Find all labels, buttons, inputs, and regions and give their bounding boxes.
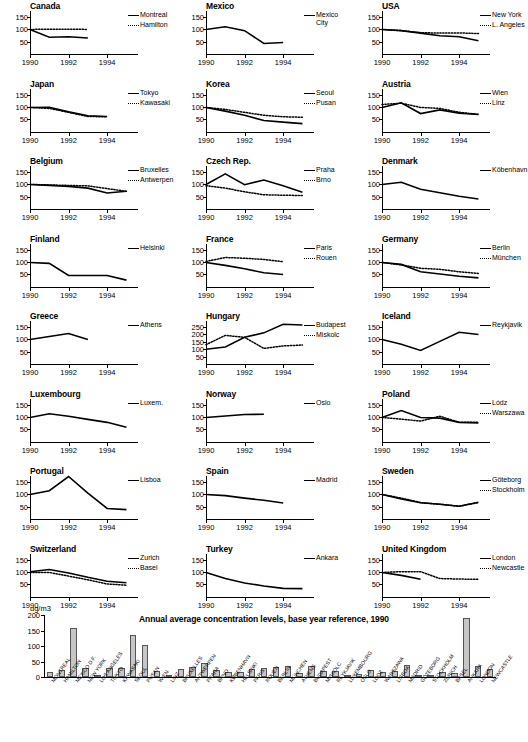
series-group bbox=[206, 11, 318, 54]
panel-title: USA bbox=[382, 1, 400, 11]
x-axis bbox=[206, 209, 314, 210]
legend-label: Berlin bbox=[492, 244, 510, 252]
x-tick-label: 1990 bbox=[22, 368, 39, 377]
legend-label: Montreal bbox=[140, 11, 167, 19]
series-line bbox=[30, 334, 88, 340]
y-tick-label: 50 bbox=[176, 502, 204, 511]
x-tick-label: 1992 bbox=[412, 368, 429, 377]
legend-swatch-icon bbox=[304, 166, 316, 171]
x-tick-label: 1994 bbox=[275, 523, 292, 532]
panel-legend: ZurichBasel bbox=[128, 554, 176, 574]
x-tick-label: 1992 bbox=[60, 58, 77, 67]
legend-item: Hamilton bbox=[128, 21, 176, 29]
y-tick-label: 100 bbox=[352, 257, 380, 266]
y-tick-label: 150 bbox=[352, 400, 380, 409]
legend-label: Lisboa bbox=[140, 476, 161, 484]
y-tick-label: 100 bbox=[0, 180, 28, 189]
x-tick-label: 1992 bbox=[236, 58, 253, 67]
bar-y-tick-label: 50 bbox=[14, 657, 40, 666]
y-tick-label: 100 bbox=[0, 567, 28, 576]
panel-sweden: Sweden50100150199019921994GöteborgStockh… bbox=[352, 465, 528, 543]
legend-label: Madrid bbox=[316, 476, 337, 484]
legend-item: Miskolc bbox=[304, 331, 352, 339]
y-tick-label: 150 bbox=[176, 555, 204, 564]
legend-swatch-icon bbox=[128, 21, 140, 26]
panel-mexico: Mexico50100150199019921994Mexico City bbox=[176, 0, 352, 78]
panel-japan: Japan50100150199019921994TokyoKawasaki bbox=[0, 78, 176, 156]
series-line bbox=[206, 27, 283, 44]
bar-y-tick-label: 100 bbox=[14, 642, 40, 651]
series-group bbox=[206, 244, 318, 287]
x-tick-label: 1994 bbox=[275, 291, 292, 300]
x-axis bbox=[206, 287, 314, 288]
bar-y-tick bbox=[41, 662, 45, 663]
x-axis bbox=[382, 519, 490, 520]
x-tick-label: 1992 bbox=[412, 523, 429, 532]
y-tick-label: 50 bbox=[352, 37, 380, 46]
legend-swatch-icon bbox=[304, 554, 316, 559]
x-tick-label: 1994 bbox=[451, 58, 468, 67]
series-group bbox=[206, 476, 318, 519]
x-tick-label: 1990 bbox=[374, 291, 391, 300]
legend-swatch-icon bbox=[480, 254, 492, 259]
panel-title: Canada bbox=[30, 1, 60, 11]
panel-legend: TokyoKawasaki bbox=[128, 89, 176, 109]
series-group bbox=[382, 476, 494, 519]
legend-item: Brno bbox=[304, 176, 352, 184]
x-axis bbox=[206, 597, 314, 598]
legend-swatch-icon bbox=[480, 409, 492, 414]
panel-legend: MontrealHamilton bbox=[128, 11, 176, 31]
y-tick-label: 150 bbox=[176, 13, 204, 22]
panel-belgium: Belgium50100150199019921994BruxellesAntw… bbox=[0, 155, 176, 233]
legend-label: Ankara bbox=[316, 554, 338, 562]
x-tick-label: 1992 bbox=[60, 291, 77, 300]
panel-title: Poland bbox=[382, 389, 410, 399]
x-axis bbox=[206, 54, 314, 55]
x-axis bbox=[30, 364, 138, 365]
y-tick-label: 100 bbox=[352, 180, 380, 189]
y-tick-label: 150 bbox=[352, 478, 380, 487]
y-tick-label: 150 bbox=[0, 245, 28, 254]
y-tick-label: 50 bbox=[352, 502, 380, 511]
x-tick-label: 1994 bbox=[451, 523, 468, 532]
legend-label: Bruxelles bbox=[140, 166, 169, 174]
x-tick-label: 1992 bbox=[236, 368, 253, 377]
legend-swatch-icon bbox=[128, 11, 140, 16]
x-tick-label: 1994 bbox=[451, 291, 468, 300]
x-tick-label: 1994 bbox=[275, 446, 292, 455]
x-tick-label: 1994 bbox=[99, 136, 116, 145]
panel-legend: LódzWarszawa bbox=[480, 399, 528, 419]
legend-swatch-icon bbox=[128, 176, 140, 181]
panel-france: France50100150199019921994ParisRouen bbox=[176, 233, 352, 311]
y-tick-label: 100 bbox=[352, 567, 380, 576]
legend-label: Budapest bbox=[316, 321, 346, 329]
legend-swatch-icon bbox=[480, 476, 492, 481]
panel-legend: Madrid bbox=[304, 476, 352, 486]
panel-legend: SeoulPusan bbox=[304, 89, 352, 109]
x-tick-label: 1990 bbox=[22, 291, 39, 300]
x-tick-label: 1990 bbox=[374, 368, 391, 377]
legend-label: New York bbox=[492, 11, 522, 19]
series-line bbox=[206, 107, 302, 123]
panel-spain: Spain50100150199019921994Madrid bbox=[176, 465, 352, 543]
legend-item: Berlin bbox=[480, 244, 528, 252]
x-axis bbox=[382, 54, 490, 55]
x-tick-label: 1990 bbox=[198, 368, 215, 377]
bar-y-tick bbox=[41, 615, 45, 616]
panel-legend: Reykjavik bbox=[480, 321, 528, 331]
panel-title: Korea bbox=[206, 79, 230, 89]
legend-label: Paris bbox=[316, 244, 332, 252]
series-group bbox=[30, 166, 142, 209]
series-line bbox=[30, 262, 126, 280]
x-tick-label: 1990 bbox=[198, 446, 215, 455]
legend-item: Montreal bbox=[128, 11, 176, 19]
legend-swatch-icon bbox=[480, 244, 492, 249]
y-tick-label: 100 bbox=[0, 102, 28, 111]
panel-germany: Germany50100150199019921994BerlinMünchen bbox=[352, 233, 528, 311]
panel-row: Belgium50100150199019921994BruxellesAntw… bbox=[0, 155, 528, 233]
x-tick-label: 1994 bbox=[99, 523, 116, 532]
y-tick-label: 100 bbox=[0, 412, 28, 421]
panel-greece: Greece50100150199019921994Athens bbox=[0, 310, 176, 388]
series-group bbox=[206, 554, 318, 597]
legend-swatch-icon bbox=[304, 244, 316, 249]
